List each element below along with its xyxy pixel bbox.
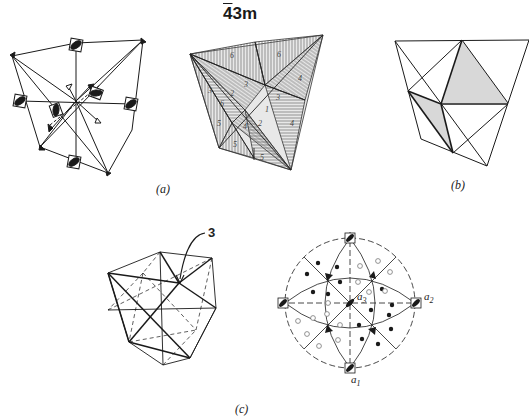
lower-hemisphere-poles	[296, 259, 393, 349]
threefold-arrow-icon	[66, 84, 72, 90]
rotoinversion-axis-icon	[13, 94, 28, 109]
face-number: 4	[298, 74, 302, 83]
axis-label-a3: a3	[357, 290, 367, 305]
caption-b: (b)	[451, 178, 465, 192]
rotoinversion-axis-icon	[67, 155, 82, 170]
pole-points	[296, 259, 395, 349]
caption-a: (a)	[156, 182, 170, 196]
shaded-face-figure	[395, 40, 529, 166]
axis-label-a1: a1	[351, 373, 361, 388]
rotoinversion-axis-icon	[278, 298, 288, 308]
face-number: 6	[220, 99, 224, 108]
face-number: 5	[233, 140, 237, 149]
rotoinversion-axis-icon	[124, 97, 139, 112]
face-number: 1	[265, 105, 269, 114]
rotoinversion-axis-icon	[69, 38, 84, 53]
axis-label-a2: a2	[424, 290, 434, 305]
face-number: 3	[207, 86, 212, 95]
face-number: 5	[260, 153, 264, 162]
rotoinversion-axis-icon	[411, 298, 421, 308]
face-number: 2	[230, 89, 234, 98]
face-number: 6	[230, 51, 234, 60]
face-number: 5	[217, 119, 221, 128]
face-number: 3	[275, 93, 280, 102]
face-number: 2	[258, 119, 262, 128]
polyhedron-figure	[108, 233, 216, 365]
face-number: 6	[277, 50, 281, 59]
rotoinversion-axis-icon	[345, 363, 355, 373]
threefold-axis-label: 3	[208, 225, 215, 240]
tetrahedron-symmetry-figure	[10, 38, 146, 176]
face-number: 4	[243, 122, 247, 131]
caption-c: (c)	[235, 402, 248, 416]
hatched-face-figure	[190, 35, 323, 170]
diagram-canvas: (a) 6 6 4 4 3 3 3 2 2 1	[0, 0, 529, 419]
face-number: 4	[290, 119, 294, 128]
rotoinversion-axis-icon	[345, 233, 355, 243]
face-number: 3	[243, 80, 248, 89]
